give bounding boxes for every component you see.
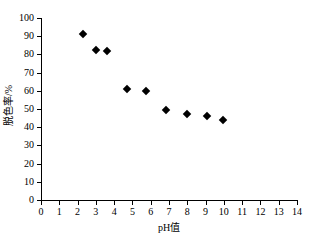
x-axis-title: pH值 — [41, 222, 297, 234]
y-tick-label: 10 — [8, 177, 34, 187]
x-tick — [297, 201, 298, 205]
y-tick-label: 90 — [8, 31, 34, 41]
x-tick — [242, 201, 243, 205]
x-tick — [132, 201, 133, 205]
y-axis-title: 脱色率/% — [3, 76, 14, 136]
x-tick — [96, 201, 97, 205]
x-tick — [41, 201, 42, 205]
x-tick — [114, 201, 115, 205]
x-tick — [59, 201, 60, 205]
y-tick-label: 20 — [8, 159, 34, 169]
x-tick — [78, 201, 79, 205]
x-tick — [224, 201, 225, 205]
x-tick-label: 14 — [285, 206, 309, 218]
scatter-chart: 01234567891011121314 0102030405060708090… — [0, 0, 309, 242]
y-tick-label: 80 — [8, 49, 34, 59]
x-tick — [151, 201, 152, 205]
y-tick-label: 0 — [8, 195, 34, 205]
x-tick — [206, 201, 207, 205]
x-tick — [279, 201, 280, 205]
x-tick — [187, 201, 188, 205]
y-tick — [37, 200, 41, 201]
y-tick-label: 30 — [8, 140, 34, 150]
x-tick — [260, 201, 261, 205]
y-tick-label: 100 — [8, 13, 34, 23]
x-tick — [169, 201, 170, 205]
